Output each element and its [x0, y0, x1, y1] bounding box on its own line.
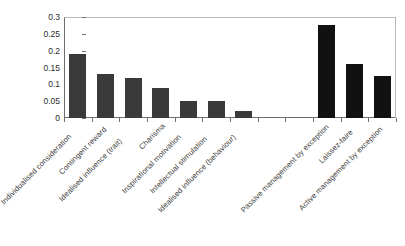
- x-tick-mark: [258, 118, 259, 122]
- y-tick-label: 0.25: [43, 30, 60, 38]
- bar: [318, 25, 335, 118]
- y-tick-mark: [82, 51, 86, 52]
- x-axis-label: Passive management by exception: [239, 123, 331, 215]
- bar: [125, 78, 142, 118]
- y-axis: 00.050.10.150.20.250.3: [22, 0, 60, 246]
- bar: [152, 88, 169, 118]
- bar: [235, 111, 252, 118]
- y-tick-label: 0.15: [43, 64, 60, 72]
- x-tick-mark: [147, 118, 148, 122]
- bar: [180, 101, 197, 118]
- y-tick-mark: [82, 34, 86, 35]
- y-tick-mark: [82, 17, 86, 18]
- bar: [208, 101, 225, 118]
- x-tick-mark: [313, 118, 314, 122]
- bar: [346, 64, 363, 118]
- y-tick-label: 0.2: [48, 47, 60, 55]
- y-tick-label: 0.3: [48, 13, 60, 21]
- x-tick-mark: [92, 118, 93, 122]
- y-tick-label: 0.1: [48, 80, 60, 88]
- x-tick-mark: [285, 118, 286, 122]
- bar: [374, 76, 391, 118]
- x-tick-mark: [119, 118, 120, 122]
- bar: [69, 54, 86, 118]
- x-tick-mark: [202, 118, 203, 122]
- y-tick-label: 0.05: [43, 97, 60, 105]
- bar-chart: 00.050.10.150.20.250.3 Individualised co…: [0, 0, 405, 246]
- x-tick-mark: [396, 118, 397, 122]
- x-tick-mark: [175, 118, 176, 122]
- x-tick-mark: [230, 118, 231, 122]
- x-tick-mark: [341, 118, 342, 122]
- figure-caption: [12, 228, 397, 240]
- x-tick-mark: [368, 118, 369, 122]
- y-tick-label: 0: [55, 114, 60, 122]
- bar: [97, 74, 114, 118]
- y-tick-mark: [82, 118, 86, 119]
- x-tick-mark: [64, 118, 65, 122]
- x-axis-label: Contingent reward: [57, 125, 108, 176]
